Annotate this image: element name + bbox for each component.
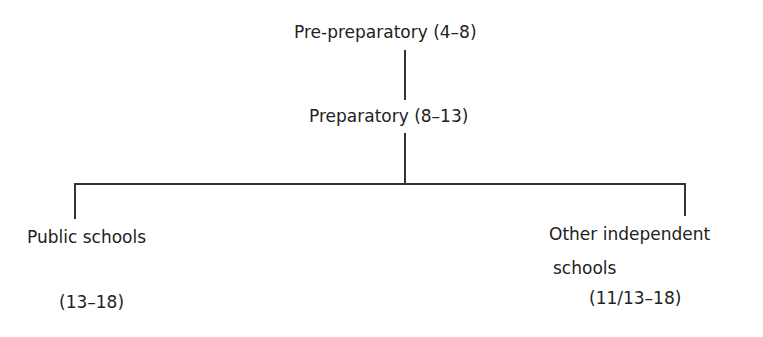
node-other-independent-line2: schools [553, 258, 616, 278]
node-public-schools: Public schools [27, 227, 146, 247]
connector-pre-to-prep [404, 50, 406, 100]
node-other-independent: Other independent [549, 224, 710, 244]
public-schools-ages: (13–18) [59, 292, 124, 312]
connector-prep-down [404, 133, 406, 183]
connector-other [684, 183, 686, 216]
node-pre-preparatory: Pre-preparatory (4–8) [294, 22, 477, 42]
connector-horizontal [74, 183, 686, 185]
node-preparatory: Preparatory (8–13) [309, 106, 468, 126]
connector-public [74, 183, 76, 219]
other-independent-ages: (11/13–18) [589, 288, 681, 308]
